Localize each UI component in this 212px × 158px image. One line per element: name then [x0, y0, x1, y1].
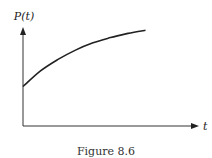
x-axis-arrow-icon	[191, 123, 199, 129]
x-axis-label: t	[203, 120, 208, 133]
y-axis-arrow-icon	[20, 27, 26, 35]
p-of-t-curve	[23, 30, 146, 86]
axes	[20, 27, 199, 129]
figure-canvas: P(t) t Figure 8.6	[0, 0, 212, 158]
figure-caption: Figure 8.6	[77, 145, 135, 158]
y-axis-label: P(t)	[13, 10, 34, 23]
